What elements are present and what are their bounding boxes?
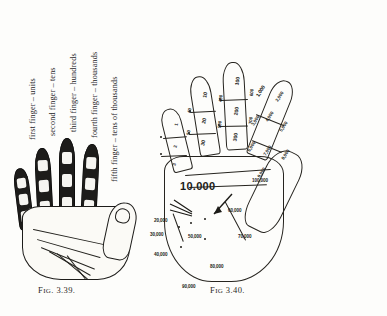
thumbnail-shaded — [114, 207, 132, 225]
num-middle-10: 10 — [201, 92, 208, 99]
figure-page: first finger – units second finger – ten… — [0, 0, 387, 316]
pointer-lines-icon — [168, 198, 200, 228]
num-middle-20: 20 — [200, 118, 207, 125]
caption-fig-3-40: FIG 3.40. — [210, 285, 245, 295]
caption-number: . 3.39. — [51, 285, 75, 295]
label-third-finger: third finger – hundreds — [69, 53, 78, 132]
num-ring-100: 100 — [234, 76, 241, 85]
num-middle-30: 30 — [199, 140, 206, 147]
num-palm-80000: 80,000 — [210, 264, 223, 269]
pointer-arrow-icon — [200, 192, 234, 226]
num-palm-90000: 90,000 — [182, 284, 195, 289]
num-palm-20000: 20,000 — [154, 218, 167, 223]
num-palm-50000: 50,000 — [188, 234, 201, 239]
caption-number: 3.40. — [223, 285, 245, 295]
num-ring-300: 300 — [232, 132, 239, 141]
label-second-finger: second finger – tens — [48, 67, 57, 136]
num-palm-70000: 70,000 — [238, 234, 251, 239]
hand-illustration-shaded — [14, 128, 154, 278]
label-fourth-finger: fourth finger – thousands — [90, 52, 99, 138]
num-palm-30000: 30,000 — [150, 232, 163, 237]
hand-illustration-outline: 1 2 3 10 20 30 40 50 100 200 300 400 500 — [160, 52, 385, 284]
num-ring-200: 200 — [233, 106, 240, 115]
caption-fig-3-39: FIG. 3.39. — [38, 285, 75, 295]
num-ring-600: 600 — [249, 89, 255, 97]
num-palm-40000: 40,000 — [154, 252, 167, 257]
num-palm-100000: 100,000 — [252, 178, 268, 183]
num-little-1000: 1,000 — [254, 84, 266, 98]
num-palm-10000: 10.000 — [180, 180, 215, 192]
